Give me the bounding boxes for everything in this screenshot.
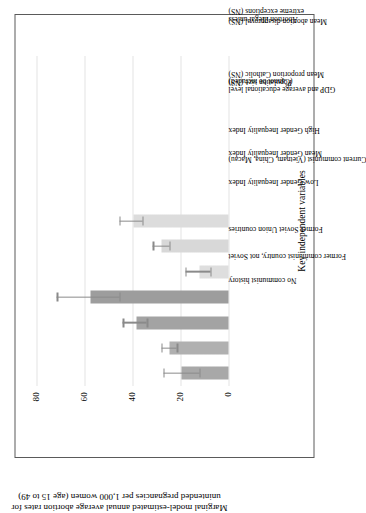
plot-area bbox=[12, 56, 228, 386]
error-bar-cap-upper bbox=[185, 267, 186, 276]
category-axis-title-wrapper: Key independent variables bbox=[296, 56, 310, 386]
category-label: No communist history bbox=[228, 276, 296, 284]
bar-slot bbox=[12, 310, 228, 335]
category-axis-title: Key independent variables bbox=[296, 56, 306, 386]
bar-slot bbox=[12, 132, 228, 157]
error-bar-cap-upper bbox=[161, 343, 162, 352]
error-bar-line bbox=[152, 246, 169, 247]
error-bar-cap-lower bbox=[169, 242, 170, 251]
error-bar-cap-upper bbox=[56, 293, 57, 302]
error-bar-line bbox=[119, 220, 142, 221]
error-bar-line bbox=[163, 373, 199, 374]
error-bar-cap-lower bbox=[142, 217, 143, 226]
bar-slot bbox=[12, 234, 228, 259]
value-tick-label-0: 0 bbox=[222, 392, 232, 416]
category-label: Former communist country, not Soviet bbox=[228, 251, 345, 259]
category-label-line: No communist history bbox=[228, 276, 296, 285]
error-bar-line bbox=[185, 271, 210, 272]
value-axis-title: Marginal model-estimated annual average … bbox=[11, 491, 227, 513]
bar bbox=[133, 215, 228, 228]
error-bar-line bbox=[161, 347, 177, 348]
error-bar-cap-upper bbox=[152, 242, 153, 251]
error-bar-cap-lower bbox=[146, 318, 147, 327]
error-bar-cap-lower bbox=[199, 369, 200, 378]
bar-slot bbox=[12, 335, 228, 360]
error-bar-line bbox=[122, 322, 146, 323]
error-bar-cap-upper bbox=[119, 217, 120, 226]
error-bar-cap-lower bbox=[176, 343, 177, 352]
error-bar-line bbox=[56, 297, 118, 298]
bar-slot bbox=[12, 183, 228, 208]
value-tick-label-80: 80 bbox=[30, 392, 40, 416]
value-tick-label-40: 40 bbox=[126, 392, 136, 416]
bar bbox=[136, 316, 228, 329]
error-bar-cap-upper bbox=[122, 318, 123, 327]
bar-slot bbox=[12, 81, 228, 106]
bar-slot bbox=[12, 208, 228, 233]
bar-slot bbox=[12, 284, 228, 309]
bar-slot bbox=[12, 56, 228, 81]
category-label-line: Abortion illegal unless bbox=[228, 15, 297, 24]
category-label-line: extreme exceptions (NS) bbox=[228, 6, 304, 14]
error-bar-cap-lower bbox=[119, 293, 120, 302]
value-tick-label-60: 60 bbox=[78, 392, 88, 416]
error-bar-cap-lower bbox=[210, 267, 211, 276]
category-label-line: Former communist country, not Soviet bbox=[228, 252, 345, 261]
bar-slot bbox=[12, 107, 228, 132]
value-axis-title-text: Marginal model-estimated annual average … bbox=[11, 492, 227, 513]
bars-layer bbox=[12, 56, 228, 386]
bar-slot bbox=[12, 158, 228, 183]
error-bar-cap-upper bbox=[163, 369, 164, 378]
bar-slot bbox=[12, 361, 228, 386]
category-label-line: Population size (NS) bbox=[228, 78, 291, 87]
category-label: Population size (NS) bbox=[228, 77, 291, 85]
value-tick-label-20: 20 bbox=[174, 392, 184, 416]
bar-slot bbox=[12, 259, 228, 284]
category-label: Abortion illegal unlessextreme exception… bbox=[228, 6, 304, 23]
